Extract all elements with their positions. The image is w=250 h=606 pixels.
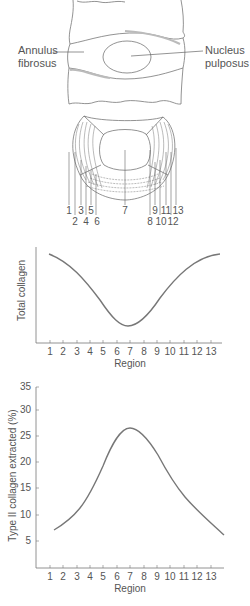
y-tick: 5 — [11, 535, 31, 546]
label-line: fibrosus — [18, 57, 58, 70]
x-tick: 1 — [47, 346, 53, 357]
x-axis-label: Region — [114, 583, 146, 594]
x-tick: 8 — [141, 571, 147, 582]
region-number: 13 — [172, 205, 183, 216]
y-tick: 20 — [11, 456, 31, 467]
x-tick: 5 — [100, 346, 106, 357]
chart-type2-collagen-axes — [36, 387, 224, 568]
region-number: 4 — [83, 216, 89, 227]
x-tick: 10 — [164, 571, 175, 582]
region-number: 10 — [155, 216, 166, 227]
region-number: 6 — [94, 216, 100, 227]
x-tick: 2 — [60, 571, 66, 582]
y-tick: 35 — [11, 381, 31, 392]
label-line: pulposus — [205, 57, 249, 70]
x-tick: 11 — [179, 571, 189, 582]
x-tick: 9 — [154, 571, 160, 582]
region-number: 2 — [72, 216, 78, 227]
region-number: 11 — [161, 205, 171, 216]
region-number: 9 — [152, 205, 158, 216]
label-line: Nucleus — [205, 44, 249, 57]
chart-type2-collagen-curve — [54, 428, 224, 535]
x-tick: 6 — [114, 346, 120, 357]
x-tick: 6 — [114, 571, 120, 582]
x-tick: 3 — [74, 346, 80, 357]
x-tick: 8 — [141, 346, 147, 357]
label-nucleus-pulposus: Nucleus pulposus — [205, 44, 249, 69]
y-axis-label: Total collagen — [16, 256, 27, 326]
x-tick: 5 — [100, 571, 106, 582]
region-number: 8 — [147, 216, 153, 227]
y-axis-label: Type II collagen extracted (%) — [7, 396, 18, 556]
disc-cross-section — [69, 116, 176, 215]
y-tick: 15 — [11, 482, 31, 493]
x-tick: 4 — [87, 571, 93, 582]
region-number: 3 — [78, 205, 84, 216]
x-tick: 12 — [191, 571, 202, 582]
y-tick: 25 — [11, 430, 31, 441]
label-leader-lines — [53, 51, 203, 56]
x-tick: 2 — [60, 346, 66, 357]
x-tick: 13 — [205, 346, 216, 357]
x-tick: 4 — [87, 346, 93, 357]
label-annulus-fibrosus: Annulus fibrosus — [18, 44, 58, 69]
region-number: 7 — [122, 205, 128, 216]
x-tick: 1 — [47, 571, 53, 582]
x-tick: 9 — [154, 346, 160, 357]
x-tick: 12 — [191, 346, 202, 357]
y-tick: 10 — [11, 509, 31, 520]
diagram-graphics — [0, 0, 250, 606]
x-tick: 10 — [164, 346, 175, 357]
region-number: 12 — [167, 216, 178, 227]
label-line: Annulus — [18, 44, 58, 57]
x-tick: 7 — [127, 346, 133, 357]
x-tick: 11 — [179, 346, 189, 357]
vertebrae-lateral-view — [68, 0, 185, 104]
x-tick: 13 — [205, 571, 216, 582]
x-axis-label: Region — [114, 358, 146, 369]
chart-total-collagen-curve — [49, 254, 220, 326]
region-number: 5 — [88, 205, 94, 216]
x-tick: 7 — [127, 571, 133, 582]
y-tick: 30 — [11, 404, 31, 415]
region-number: 1 — [66, 205, 72, 216]
x-tick: 3 — [74, 571, 80, 582]
